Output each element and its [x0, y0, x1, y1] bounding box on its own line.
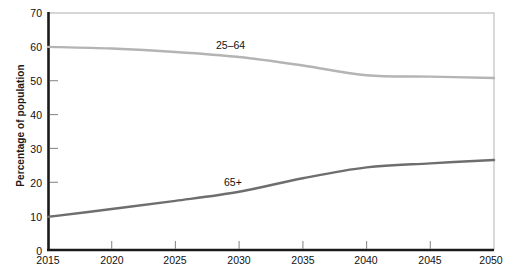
y-tick-marks — [50, 47, 58, 216]
chart-container: Percentage of population 70 60 50 40 30 … — [0, 0, 510, 279]
series-annotation-65-plus: 65+ — [224, 176, 242, 188]
series-line-25-64 — [48, 47, 494, 78]
series-line-65-plus — [48, 160, 494, 217]
plot-area — [0, 0, 510, 279]
series-annotation-25-64: 25–64 — [216, 39, 245, 51]
x-tick-marks — [112, 241, 431, 249]
